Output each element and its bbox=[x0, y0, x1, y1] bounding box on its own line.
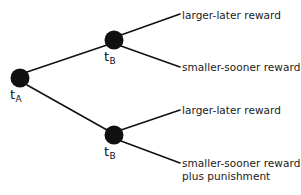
tree-edge bbox=[27, 85, 107, 130]
leaf-larger-later-top: larger-later reward bbox=[182, 9, 281, 22]
node-label-upper-tb: tB bbox=[104, 50, 116, 66]
node-label-root: tA bbox=[10, 88, 22, 104]
edge-group bbox=[27, 14, 180, 163]
node-label-subscript: A bbox=[15, 94, 22, 104]
tree-node-root bbox=[11, 69, 30, 88]
tree-edge bbox=[121, 110, 180, 130]
node-label-subscript: B bbox=[109, 151, 116, 161]
tree-node-upper-tb bbox=[105, 31, 124, 50]
tree-edge bbox=[121, 141, 180, 163]
tree-edge bbox=[121, 46, 180, 67]
node-label-subscript: B bbox=[109, 56, 116, 66]
node-label-lower-tb: tB bbox=[104, 145, 116, 161]
node-group bbox=[11, 31, 124, 145]
leaf-smaller-sooner-top: smaller-sooner reward bbox=[182, 61, 300, 74]
tree-edge bbox=[27, 45, 107, 72]
decision-tree-figure: tAtBtB larger-later rewardsmaller-sooner… bbox=[0, 0, 301, 195]
tree-node-lower-tb bbox=[105, 126, 124, 145]
leaf-larger-later-bottom: larger-later reward bbox=[182, 104, 281, 117]
tree-edge bbox=[121, 14, 180, 35]
leaf-smaller-sooner-punishment: smaller-sooner reward plus punishment bbox=[182, 157, 300, 183]
